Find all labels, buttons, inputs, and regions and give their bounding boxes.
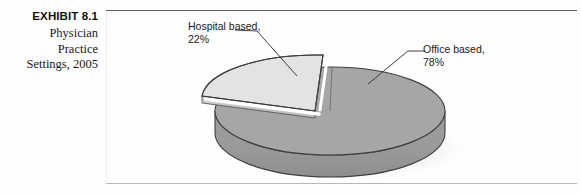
pie-label-hospital-based: Hospital based, 22%	[188, 20, 260, 45]
pie-label-office-text: Office based,	[423, 43, 485, 55]
exhibit-figure: EXHIBIT 8.1 Physician Practice Settings,…	[0, 0, 581, 195]
exhibit-caption-line-3: Settings, 2005	[0, 57, 98, 73]
pie-label-hospital-value: 22%	[188, 33, 260, 46]
pie-label-hospital-text: Hospital based,	[188, 20, 260, 32]
exhibit-caption-line-1: Physician	[0, 26, 98, 42]
exhibit-caption-block: EXHIBIT 8.1 Physician Practice Settings,…	[0, 9, 98, 73]
pie-label-office-based: Office based, 78%	[423, 43, 485, 68]
exhibit-number: EXHIBIT 8.1	[0, 9, 98, 23]
vertical-divider-rule	[106, 11, 107, 182]
pie-label-office-value: 78%	[423, 56, 485, 69]
pie-chart: Hospital based, 22% Office based, 78%	[180, 8, 500, 188]
exhibit-caption-line-2: Practice	[0, 42, 98, 58]
